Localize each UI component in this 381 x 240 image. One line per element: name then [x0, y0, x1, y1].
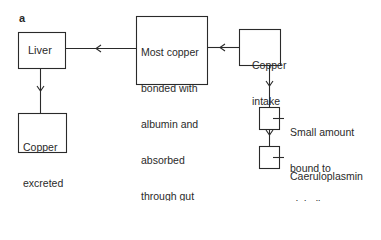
bonded-label: Most copper bonded with albumin and abso… — [141, 22, 199, 201]
intake-label: Copper intake — [252, 35, 286, 119]
bonded-line: Most copper — [141, 46, 199, 58]
bonded-line: absorbed — [141, 154, 199, 166]
bonded-line: albumin and — [141, 118, 199, 130]
intake-line: intake — [252, 95, 286, 107]
bonded-line: through gut — [141, 190, 199, 201]
globulin-line: Small amount — [290, 126, 354, 138]
excreted-label: Copper excreted in bile — [23, 117, 63, 201]
liver-label: Liver — [28, 44, 52, 56]
intake-line: Copper — [252, 59, 286, 71]
caeruloplasmin-line: Caeruloplasmin — [290, 170, 363, 182]
caeruloplasmin-label: Caeruloplasmin in blood — [290, 146, 363, 201]
excreted-line: excreted — [23, 177, 63, 189]
excreted-line: Copper — [23, 141, 63, 153]
bonded-line: bonded with — [141, 82, 199, 94]
